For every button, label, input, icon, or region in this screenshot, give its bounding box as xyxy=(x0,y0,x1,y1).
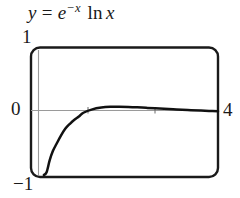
plot-canvas xyxy=(0,0,240,198)
graph-figure: y=e−xlnx 1 0 −1 4 xyxy=(0,0,240,198)
function-curve xyxy=(44,107,218,175)
viewing-window-frame xyxy=(31,48,218,178)
